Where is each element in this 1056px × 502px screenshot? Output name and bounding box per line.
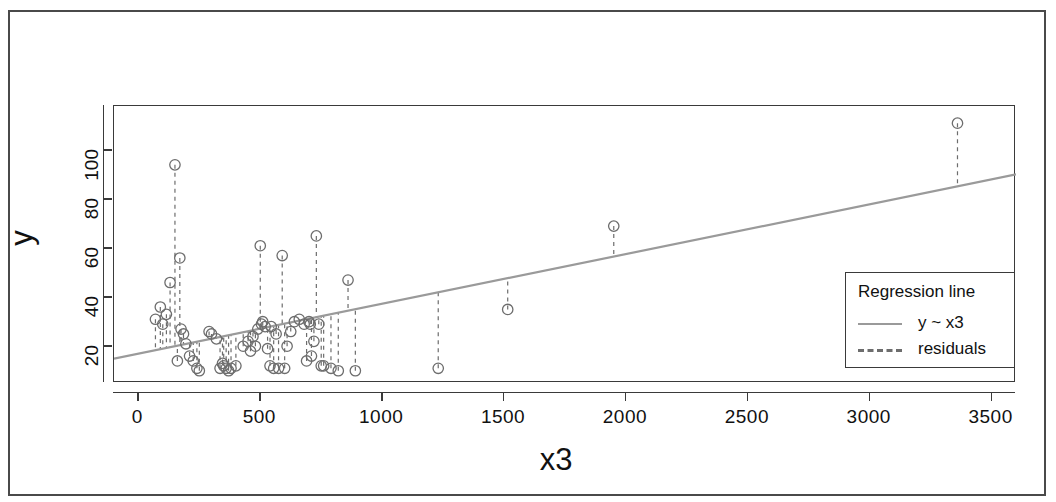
x-tick-label: 3000: [847, 406, 891, 428]
y-tick: [103, 198, 112, 199]
x-tick: [259, 392, 260, 401]
legend-residual-label: residuals: [918, 339, 986, 359]
y-tick: [103, 345, 112, 346]
legend-solid-line-icon: [858, 323, 902, 325]
y-tick-label: 100: [81, 149, 103, 181]
legend-title: Regression line: [858, 282, 975, 302]
x-tick-label: 1500: [481, 406, 525, 428]
y-tick-label: 20: [81, 345, 103, 366]
y-tick-label: 40: [81, 296, 103, 317]
x-axis-label: x3: [540, 442, 573, 478]
x-tick: [991, 392, 992, 401]
residual-lines: [155, 123, 957, 371]
x-tick-label: 3500: [968, 406, 1012, 428]
legend-box: Regression line y ~ x3 residuals: [845, 272, 1015, 368]
legend-fit-label: y ~ x3: [918, 313, 964, 333]
legend-dashed-line-icon: [858, 349, 902, 352]
x-tick-label: 2000: [603, 406, 647, 428]
x-tick: [503, 392, 504, 401]
data-points: [150, 118, 962, 376]
y-tick: [103, 149, 112, 150]
y-axis-line: [103, 105, 104, 382]
y-tick: [103, 247, 112, 248]
figure-container: 0500100015002000250030003500 20406080100…: [0, 0, 1056, 502]
y-tick: [103, 296, 112, 297]
x-tick-label: 500: [243, 406, 276, 428]
x-tick: [137, 392, 138, 401]
x-tick-label: 0: [132, 406, 143, 428]
x-tick: [381, 392, 382, 401]
x-tick-label: 1000: [359, 406, 403, 428]
x-tick-label: 2500: [725, 406, 769, 428]
x-tick: [747, 392, 748, 401]
x-tick: [869, 392, 870, 401]
x-tick: [625, 392, 626, 401]
y-axis-label: y: [4, 230, 40, 246]
y-tick-label: 80: [81, 198, 103, 219]
x-axis-line: [113, 392, 1015, 393]
y-tick-label: 60: [81, 247, 103, 268]
